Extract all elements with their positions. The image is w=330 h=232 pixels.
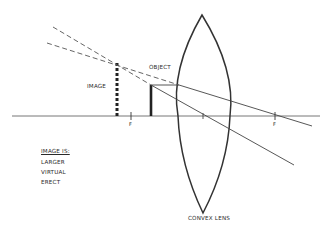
object-label: OBJECT bbox=[149, 65, 171, 71]
property-item: VIRTUAL bbox=[41, 170, 66, 176]
image-label: IMAGE bbox=[87, 84, 106, 90]
focal-point-left-label: F bbox=[129, 122, 132, 127]
property-item: ERECT bbox=[41, 180, 60, 186]
virtual-ray-extension-1 bbox=[53, 27, 151, 85]
lens-diagram: IMAGE OBJECT F F CONVEX LENS IMAGE IS: L… bbox=[0, 0, 330, 232]
property-item: LARGER bbox=[41, 160, 65, 166]
ray-refracted-through-focus bbox=[179, 85, 312, 126]
focal-point-right-label: F bbox=[273, 122, 276, 127]
optics-drawing bbox=[0, 0, 330, 232]
lens-label: CONVEX LENS bbox=[188, 216, 230, 222]
properties-heading: IMAGE IS: bbox=[41, 149, 70, 155]
